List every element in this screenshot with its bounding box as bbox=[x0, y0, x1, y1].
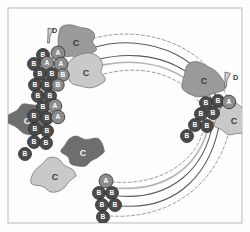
connection-arc bbox=[110, 122, 231, 216]
node-badge-a[interactable]: A bbox=[99, 174, 113, 188]
node-badge-b[interactable]: B bbox=[201, 120, 214, 133]
badge-label: B bbox=[41, 103, 46, 110]
badge-label: B bbox=[56, 81, 61, 88]
region-blob[interactable]: C bbox=[182, 61, 226, 96]
region-blob[interactable]: C bbox=[67, 53, 106, 88]
badge-label: B bbox=[97, 189, 102, 196]
badge-label: A bbox=[56, 113, 61, 120]
badge-label: B bbox=[199, 110, 204, 117]
badge-label: B bbox=[44, 139, 49, 146]
badge-label: B bbox=[38, 70, 43, 77]
node-badge-b[interactable]: B bbox=[189, 119, 202, 132]
badge-label: A bbox=[59, 60, 64, 67]
badge-label: B bbox=[204, 99, 209, 106]
badge-label: B bbox=[45, 114, 50, 121]
connection-arc bbox=[122, 120, 220, 206]
badge-label: B bbox=[101, 213, 106, 220]
node-badge-b[interactable]: B bbox=[96, 199, 109, 212]
node-badge-a[interactable]: A bbox=[222, 95, 236, 109]
node-badge-b[interactable]: B bbox=[109, 199, 122, 212]
pin-label: D bbox=[52, 26, 57, 35]
blob-label: C bbox=[83, 68, 90, 78]
badge-label: B bbox=[48, 92, 53, 99]
pin-label: D bbox=[233, 73, 238, 82]
region-blob[interactable]: C bbox=[61, 136, 105, 167]
blob-label: C bbox=[231, 116, 238, 126]
node-badge-b[interactable]: B bbox=[28, 110, 41, 123]
badge-label: B bbox=[33, 125, 38, 132]
node-badge-a[interactable]: A bbox=[51, 110, 65, 124]
node-badge-b[interactable]: B bbox=[207, 107, 220, 120]
badge-label: B bbox=[100, 201, 105, 208]
badge-label: A bbox=[227, 98, 232, 105]
blob-label: C bbox=[80, 148, 87, 158]
badge-label: B bbox=[211, 109, 216, 116]
arc-diagram-svg: CCCCCCC BABAABBBBBBBBBABBABBBBBABBBBBBBA… bbox=[0, 0, 250, 232]
badge-label: B bbox=[45, 127, 50, 134]
node-badge-b[interactable]: B bbox=[93, 187, 106, 200]
pin-right-marker[interactable]: D bbox=[225, 72, 239, 87]
node-badge-b[interactable]: B bbox=[97, 211, 110, 224]
node-badge-b[interactable]: B bbox=[52, 79, 64, 91]
badge-label: B bbox=[185, 132, 190, 139]
badge-label: B bbox=[50, 70, 55, 77]
node-badge-b[interactable]: B bbox=[19, 148, 32, 161]
badge-label: B bbox=[110, 189, 115, 196]
badge-label: B bbox=[45, 81, 50, 88]
badge-label: A bbox=[45, 59, 50, 66]
node-badge-b[interactable]: B bbox=[40, 137, 53, 150]
badge-label: B bbox=[36, 92, 41, 99]
badge-label: B bbox=[32, 112, 37, 119]
badge-label: B bbox=[32, 60, 37, 67]
badge-label: B bbox=[61, 71, 66, 78]
badge-label: B bbox=[23, 150, 28, 157]
badge-label: B bbox=[205, 122, 210, 129]
blob-label: C bbox=[52, 172, 59, 182]
badge-label: A bbox=[104, 177, 109, 184]
node-badge-b[interactable]: B bbox=[28, 136, 41, 149]
connection-arc bbox=[116, 124, 209, 188]
blob-label: C bbox=[201, 76, 208, 86]
node-badge-b[interactable]: B bbox=[29, 123, 42, 136]
badge-label: B bbox=[32, 138, 37, 145]
figure-canvas: CCCCCCC BABAABBBBBBBBBABBABBBBBABBBBBBBA… bbox=[0, 0, 250, 232]
pin-left-marker[interactable]: D bbox=[48, 26, 58, 43]
badge-label: A bbox=[56, 49, 61, 56]
badge-label: B bbox=[113, 201, 118, 208]
badge-label: A bbox=[53, 102, 58, 109]
node-badge-b[interactable]: B bbox=[106, 187, 119, 200]
node-badge-b[interactable]: B bbox=[41, 125, 54, 138]
badge-label: B bbox=[193, 121, 198, 128]
badge-label: B bbox=[216, 97, 221, 104]
badge-label: B bbox=[33, 81, 38, 88]
node-badge-b[interactable]: B bbox=[181, 130, 194, 143]
blob-label: C bbox=[73, 38, 80, 48]
